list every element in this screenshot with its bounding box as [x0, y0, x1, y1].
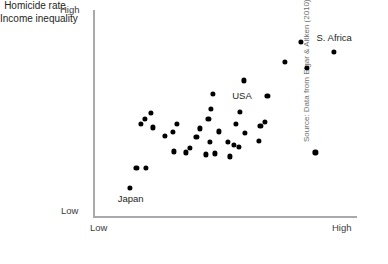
- data-point: [213, 151, 218, 156]
- data-point: [313, 150, 318, 155]
- x-axis-title: Income inequality: [0, 13, 388, 24]
- data-point: [241, 78, 246, 83]
- data-point: [265, 93, 270, 98]
- data-point: [139, 121, 144, 126]
- data-point: [227, 154, 232, 159]
- point-label-usa: USA: [232, 90, 252, 101]
- data-point: [237, 109, 242, 114]
- data-point: [236, 144, 241, 149]
- point-label-japan: Japan: [118, 193, 144, 204]
- data-point: [187, 145, 192, 150]
- data-point: [225, 139, 230, 144]
- data-point: [144, 165, 149, 170]
- data-point-s-africa: [332, 49, 337, 54]
- data-point: [282, 59, 287, 64]
- scatter-chart: High Low Low High Homicide rate Income i…: [0, 0, 388, 264]
- data-point: [263, 119, 268, 124]
- data-point: [211, 91, 216, 96]
- data-point: [171, 149, 176, 154]
- data-point: [242, 131, 247, 136]
- x-axis-tick-low: Low: [90, 222, 107, 233]
- data-point: [183, 150, 188, 155]
- data-point: [258, 123, 263, 128]
- y-axis-tick-low: Low: [61, 205, 78, 216]
- data-point: [233, 121, 238, 126]
- y-axis-line: [93, 10, 95, 218]
- y-axis-tick-high: High: [60, 4, 80, 15]
- data-point: [149, 110, 154, 115]
- data-point: [162, 134, 167, 139]
- data-point: [206, 116, 211, 121]
- data-point: [174, 121, 179, 126]
- data-point: [150, 125, 155, 130]
- data-point: [209, 107, 214, 112]
- data-point: [216, 129, 221, 134]
- x-axis-tick-high: High: [332, 222, 352, 233]
- data-point: [170, 130, 175, 135]
- point-label-s-africa: S. Africa: [317, 32, 352, 43]
- x-axis-line: [93, 216, 357, 218]
- data-point: [256, 138, 261, 143]
- data-point-japan: [127, 185, 132, 190]
- data-point: [198, 126, 203, 131]
- data-point: [194, 134, 199, 139]
- data-point: [208, 139, 213, 144]
- data-point: [204, 152, 209, 157]
- source-note: Source: Data from Elgar & Aitken (2010).: [302, 0, 311, 142]
- data-point: [143, 116, 148, 121]
- data-point: [134, 165, 139, 170]
